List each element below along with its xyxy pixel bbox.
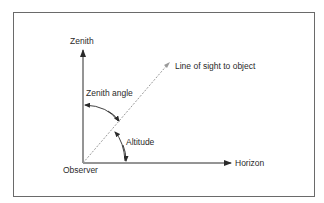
observer-label: Observer [63, 166, 98, 175]
diagram-canvas [0, 0, 324, 203]
line-of-sight [83, 64, 168, 163]
zenith-label: Zenith [70, 37, 94, 46]
horizon-label: Horizon [235, 159, 264, 168]
altitude-label: Altitude [126, 138, 154, 147]
zenith-angle-label: Zenith angle [86, 89, 133, 98]
line-of-sight-label: Line of sight to object [175, 62, 255, 71]
zenith-angle-arc [85, 105, 118, 121]
